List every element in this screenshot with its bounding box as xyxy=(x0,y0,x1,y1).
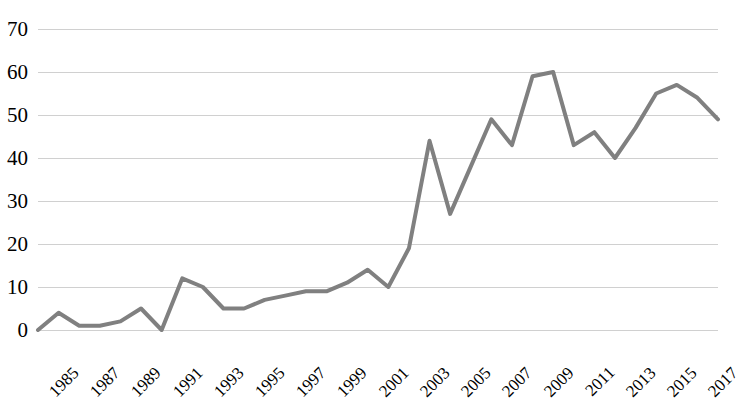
y-tick-label: 60 xyxy=(7,62,28,83)
series-line xyxy=(38,72,718,330)
x-tick-label-text: 1991 xyxy=(170,364,206,400)
x-tick-label-text: 1997 xyxy=(293,364,329,400)
x-tick-label: 1997 xyxy=(317,340,353,376)
y-tick-label: 30 xyxy=(7,191,28,212)
x-tick-label-text: 2001 xyxy=(376,364,412,400)
x-tick-label: 1991 xyxy=(194,340,230,376)
y-tick-label: 50 xyxy=(7,105,28,126)
x-tick-label-text: 2005 xyxy=(458,364,494,400)
x-tick-label-text: 1999 xyxy=(334,364,370,400)
y-tick-label: 70 xyxy=(7,19,28,40)
x-tick-label-text: 1995 xyxy=(252,364,288,400)
line-chart-figure: 706050403020100 198519871989199119931995… xyxy=(0,0,737,413)
x-tick-label: 1987 xyxy=(111,340,147,376)
x-tick-label-text: 2011 xyxy=(582,364,618,400)
x-tick-label-text: 2009 xyxy=(540,364,576,400)
x-tick-label: 2001 xyxy=(400,340,436,376)
x-tick-label: 1985 xyxy=(70,340,106,376)
x-tick-label-text: 1989 xyxy=(128,364,164,400)
y-tick-label: 40 xyxy=(7,148,28,169)
x-tick-label: 1999 xyxy=(358,340,394,376)
y-tick-label: 20 xyxy=(7,234,28,255)
x-tick-label-text: 2003 xyxy=(417,364,453,400)
gridline xyxy=(38,330,718,331)
y-axis: 706050403020100 xyxy=(0,0,36,413)
plot-area xyxy=(38,29,718,330)
data-series-line xyxy=(38,29,718,330)
x-tick-label: 1989 xyxy=(152,340,188,376)
x-tick-label: 2013 xyxy=(647,340,683,376)
y-tick-label: 0 xyxy=(18,320,29,341)
x-tick-label: 2003 xyxy=(441,340,477,376)
x-tick-label: 2015 xyxy=(688,340,724,376)
x-tick-label: 1993 xyxy=(235,340,271,376)
x-tick-label: 2011 xyxy=(606,340,642,376)
x-tick-label-text: 2017 xyxy=(705,364,737,400)
x-tick-label: 2009 xyxy=(564,340,600,376)
x-tick-label: 2007 xyxy=(523,340,559,376)
x-tick-label-text: 2013 xyxy=(623,364,659,400)
x-tick-label: 2005 xyxy=(482,340,518,376)
x-tick-label: 1995 xyxy=(276,340,312,376)
x-tick-label-text: 2015 xyxy=(664,364,700,400)
x-tick-label-text: 1993 xyxy=(211,364,247,400)
x-tick-label-text: 1985 xyxy=(46,364,82,400)
x-tick-label-text: 1987 xyxy=(87,364,123,400)
y-tick-label: 10 xyxy=(7,277,28,298)
x-axis: 1985198719891991199319951997199920012003… xyxy=(38,334,737,413)
x-tick-label-text: 2007 xyxy=(499,364,535,400)
x-tick-label: 2017 xyxy=(729,340,737,376)
